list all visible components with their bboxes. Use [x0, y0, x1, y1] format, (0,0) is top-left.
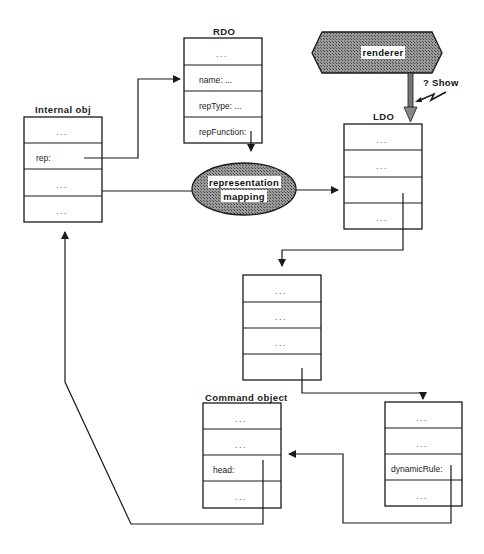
- rule-obj-cell-1: ...: [416, 439, 428, 449]
- rdo-cell-name: name: ...: [199, 75, 232, 85]
- renderer-to-ldo-arrow: [404, 73, 417, 122]
- ldo-cell-3: ...: [376, 213, 388, 223]
- middle-obj-box: ... ... ...: [243, 275, 321, 380]
- mapping-label-line2: mapping: [223, 191, 265, 202]
- lightning-icon: [415, 92, 446, 102]
- command-object-cell-3: ...: [235, 492, 247, 502]
- middle-obj-cell-2: ...: [275, 338, 287, 348]
- mapping-ellipse: [192, 163, 296, 215]
- command-object-cell-0: ...: [235, 414, 247, 424]
- internal-obj-cell-2: ...: [56, 180, 68, 190]
- representation-mapping-node: representation mapping: [192, 163, 296, 215]
- ldo-cell-0: ...: [376, 135, 388, 145]
- renderer-node: renderer: [312, 32, 442, 73]
- diagram-canvas: Internal obj ... rep: ... ... RDO ... na…: [0, 0, 484, 554]
- internal-obj-title: Internal obj: [35, 104, 91, 115]
- command-object-title: Command object: [205, 392, 288, 403]
- internal-obj-cell-3: ...: [56, 206, 68, 216]
- rdo-title: RDO: [213, 26, 235, 37]
- rule-obj-cell-0: ...: [416, 413, 428, 423]
- ldo-cell-1: ...: [376, 161, 388, 171]
- rdo-cell-repfunction: repFunction:: [199, 127, 246, 137]
- mapping-label-line1: representation: [209, 177, 279, 188]
- ldo-box: LDO ... ... ...: [344, 111, 422, 229]
- command-object-box: Command object ... ... head: ...: [203, 392, 288, 508]
- ldo-title: LDO: [373, 111, 394, 122]
- middle-obj-cell-0: ...: [275, 286, 287, 296]
- renderer-label: renderer: [363, 47, 404, 58]
- command-object-cell-head: head:: [213, 465, 234, 475]
- show-event-label: ? Show: [423, 77, 459, 88]
- command-object-cell-1: ...: [235, 440, 247, 450]
- rule-obj-cell-dynamicrule: dynamicRule:: [391, 464, 443, 474]
- internal-obj-cell-rep: rep:: [36, 153, 51, 163]
- internal-obj-cell-0: ...: [56, 127, 68, 137]
- middle-obj-cell-1: ...: [275, 312, 287, 322]
- rule-obj-cell-3: ...: [416, 491, 428, 501]
- rdo-cell-0: ...: [216, 49, 228, 59]
- rdo-cell-reptype: repType: ...: [199, 101, 242, 111]
- rdo-box: RDO ... name: ... repType: ... repFuncti…: [184, 26, 262, 143]
- internal-obj-box: Internal obj ... rep: ... ...: [24, 104, 102, 222]
